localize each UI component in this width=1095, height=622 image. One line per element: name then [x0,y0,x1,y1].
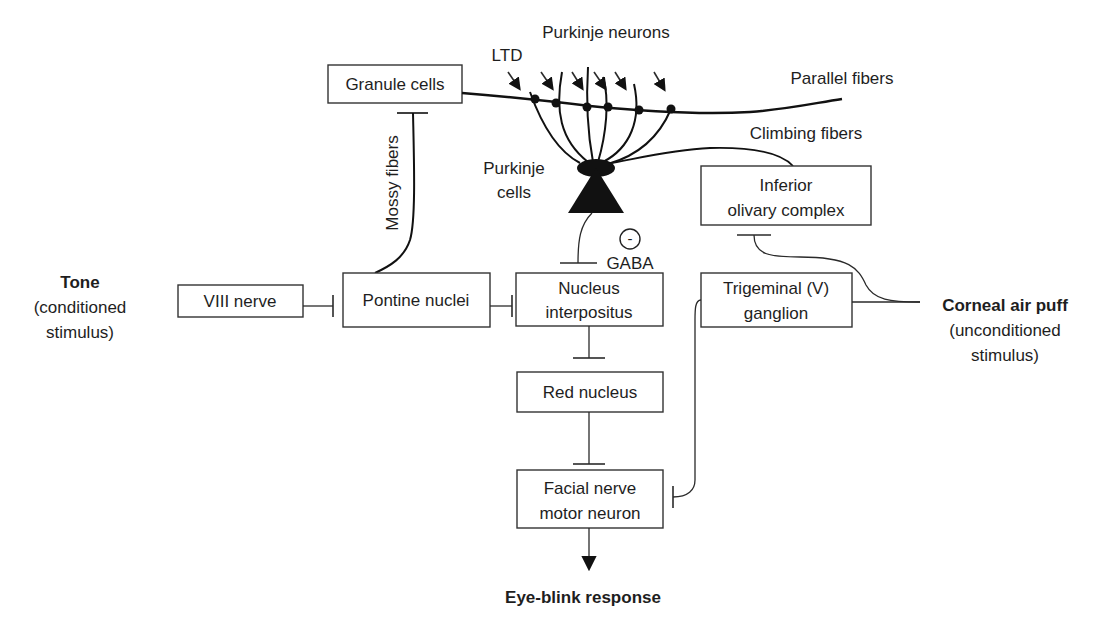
viii-nerve-node: VIII nerve [178,285,303,317]
ltd-label: LTD [492,46,523,65]
trigeminal-to-facial-line [673,300,701,497]
tone-sublabel-2: stimulus) [46,323,114,342]
pontine-nuclei-node: Pontine nuclei [343,273,490,327]
granule-cells-label: Granule cells [345,75,444,94]
inferior-olivary-label-2: olivary complex [727,201,845,220]
nucleus-interpositus-label-2: interpositus [546,303,633,322]
tone-sublabel-1: (conditioned [34,298,127,317]
ltd-arrows [508,72,664,89]
inferior-olivary-label-1: Inferior [760,176,813,195]
facial-nerve-label-1: Facial nerve [544,479,637,498]
facial-nerve-label-2: motor neuron [539,504,640,523]
purkinje-cell-soma [568,159,624,213]
minus-sign-icon: - [620,229,640,249]
pontine-nuclei-label: Pontine nuclei [363,291,470,310]
eye-blink-response-label: Eye-blink response [505,588,661,607]
gaba-label: GABA [606,254,654,273]
climbing-fibers-label: Climbing fibers [750,124,862,143]
facial-nerve-motor-neuron-node: Facial nerve motor neuron [517,470,663,528]
purkinje-axon-line [578,213,592,263]
viii-nerve-label: VIII nerve [204,292,277,311]
mossy-fibers-label: Mossy fibers [383,135,402,230]
air-puff-sublabel-2: stimulus) [971,346,1039,365]
corneal-air-puff-label: Corneal air puff [942,296,1068,315]
nucleus-interpositus-node: Nucleus interpositus [516,273,663,326]
granule-cells-node: Granule cells [328,65,462,103]
trigeminal-ganglion-node: Trigeminal (V) ganglion [701,273,852,327]
nucleus-interpositus-label-1: Nucleus [558,279,619,298]
air-puff-sublabel-1: (unconditioned [949,321,1061,340]
purkinje-cells-label-line1: Purkinje [483,159,544,178]
purkinje-cells-label-line2: cells [497,183,531,202]
parallel-fibers-label: Parallel fibers [791,69,894,88]
trigeminal-label-2: ganglion [744,304,808,323]
svg-text:-: - [628,230,633,247]
tone-label: Tone [60,273,99,292]
climbing-fiber-line [606,148,793,166]
parallel-fiber-line [462,93,842,113]
red-nucleus-node: Red nucleus [517,372,663,412]
purkinje-neurons-label: Purkinje neurons [542,23,670,42]
cerebellar-eyeblink-circuit-diagram: Purkinje neurons LTD Parallel fibers Cli… [0,0,1095,622]
trigeminal-label-1: Trigeminal (V) [723,279,829,298]
inferior-olivary-complex-node: Inferior olivary complex [701,166,871,225]
red-nucleus-label: Red nucleus [543,383,638,402]
